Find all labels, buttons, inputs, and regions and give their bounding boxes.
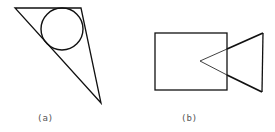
triangle-b-lower-thick [227, 75, 262, 92]
inscribed-circle [41, 8, 83, 50]
diagram-canvas: (a) (b) [0, 0, 275, 132]
figure-a: (a) [15, 8, 101, 123]
triangle-b-lower-thin [200, 61, 227, 75]
triangle-b-right-edge [262, 33, 263, 92]
label-a: (a) [37, 113, 53, 123]
label-b: (b) [181, 113, 197, 123]
triangle-a [15, 8, 101, 103]
rectangle-b [155, 33, 227, 90]
triangle-b-upper-thick [227, 33, 263, 49]
figure-b: (b) [155, 33, 263, 123]
triangle-b-upper-thin [200, 49, 227, 61]
